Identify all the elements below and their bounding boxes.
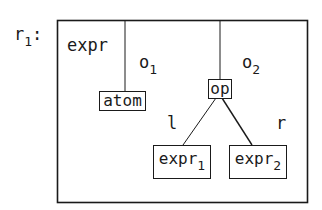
rule-label: r1: [14,26,42,43]
node-expr1: expr1 [153,145,211,179]
rule-label-sub: 1 [24,34,32,49]
o2-base: o [242,52,252,72]
expr1-sub: 1 [197,159,205,172]
o2-sub: 2 [252,62,260,77]
edge-right [222,98,252,145]
o1-sub: 1 [149,62,157,77]
frame-label: expr [67,37,108,54]
o1-base: o [139,52,149,72]
operand-label-o2: o2 [242,54,260,71]
operand-label-o1: o1 [139,54,157,71]
expr1-base: expr [159,151,198,167]
node-op: op [208,79,232,99]
edge-label-left: l [167,115,177,132]
node-expr2: expr2 [229,145,287,179]
rule-label-suffix: : [32,24,42,44]
expr2-base: expr [235,151,274,167]
edge-label-right: r [276,115,286,132]
node-atom: atom [99,91,146,111]
rule-label-base: r [14,24,24,44]
expr2-sub: 2 [273,159,281,172]
edge-left [183,98,216,145]
